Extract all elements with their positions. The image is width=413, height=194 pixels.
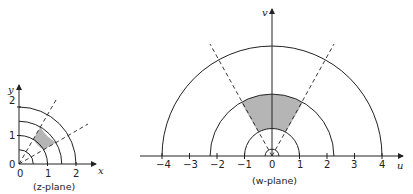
x-tick-2: 2 bbox=[73, 168, 79, 179]
w-plane: v u −4 −3 −2 −1 0 1 2 3 4 (w-plane) bbox=[140, 7, 403, 186]
u-tick-neg2: −2 bbox=[210, 159, 225, 170]
x-tick-0: 0 bbox=[17, 168, 23, 179]
u-axis-label: u bbox=[397, 160, 403, 171]
x-tick-1: 1 bbox=[45, 168, 51, 179]
u-tick-neg3: −3 bbox=[183, 159, 198, 170]
origin-label: 0 bbox=[9, 159, 15, 170]
u-tick-4: 4 bbox=[379, 159, 385, 170]
z-plane: y x 0 0 1 2 1 2 (z-plane) bbox=[7, 84, 104, 192]
u-tick-2: 2 bbox=[324, 159, 330, 170]
u-tick-0: 0 bbox=[269, 159, 275, 170]
u-tick-3: 3 bbox=[351, 159, 357, 170]
u-tick-1: 1 bbox=[297, 159, 303, 170]
x-axis-label: x bbox=[98, 165, 104, 176]
z-plane-caption: (z-plane) bbox=[33, 181, 75, 192]
y-axis-label: y bbox=[7, 84, 14, 95]
conformal-map-diagram: y x 0 0 1 2 1 2 (z-plane) bbox=[0, 0, 413, 194]
u-tick-neg4: −4 bbox=[156, 159, 171, 170]
z-shaded-region bbox=[33, 127, 56, 150]
w-plane-caption: (w-plane) bbox=[252, 175, 297, 186]
y-tick-2: 2 bbox=[9, 95, 15, 106]
u-tick-neg1: −1 bbox=[237, 159, 252, 170]
y-tick-1: 1 bbox=[9, 130, 15, 141]
v-axis-label: v bbox=[262, 7, 268, 18]
